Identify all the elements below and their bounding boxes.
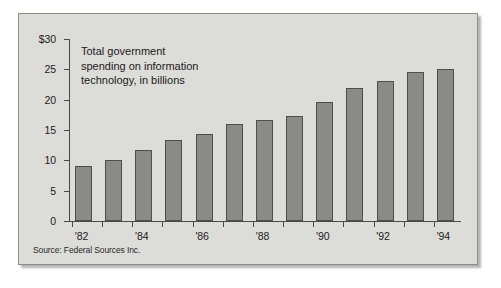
x-axis-tick bbox=[374, 222, 375, 227]
x-axis-tick bbox=[283, 222, 284, 227]
bar bbox=[346, 88, 363, 221]
y-axis-tick: 10 bbox=[64, 160, 69, 161]
x-axis-tick-label: '92 bbox=[376, 230, 389, 242]
y-axis-tick-label: 10 bbox=[45, 154, 56, 166]
bar bbox=[105, 160, 122, 221]
y-axis-tick-label: 15 bbox=[45, 124, 56, 136]
bar bbox=[407, 72, 424, 221]
y-axis-tick-label: 5 bbox=[50, 185, 56, 197]
y-axis-line bbox=[69, 39, 70, 222]
x-axis-tick bbox=[102, 222, 103, 227]
bar bbox=[196, 134, 213, 221]
x-axis-tick-label: '88 bbox=[256, 230, 269, 242]
x-axis-tick bbox=[223, 222, 224, 227]
bar bbox=[75, 166, 92, 221]
chart-panel: Total government spending on information… bbox=[18, 13, 478, 265]
y-axis-tick: 5 bbox=[64, 191, 69, 192]
y-axis-tick: 25 bbox=[64, 69, 69, 70]
bar bbox=[377, 81, 394, 221]
x-axis-tick bbox=[132, 222, 133, 227]
x-axis-tick bbox=[343, 222, 344, 227]
bar bbox=[135, 150, 152, 221]
x-axis-tick bbox=[404, 222, 405, 227]
x-axis-tick bbox=[253, 222, 254, 227]
x-axis-tick bbox=[193, 222, 194, 227]
bar bbox=[226, 124, 243, 221]
x-axis-tick-label: '84 bbox=[135, 230, 148, 242]
y-axis-tick-label: 0 bbox=[50, 215, 56, 227]
bar bbox=[165, 140, 182, 221]
y-axis-tick: $30 bbox=[64, 39, 69, 40]
x-axis-line bbox=[69, 221, 461, 222]
x-axis-tick-label: '90 bbox=[316, 230, 329, 242]
plot-area: 0510152025$30 '82'84'86'88'90'92'94 bbox=[69, 39, 461, 221]
x-axis-tick bbox=[313, 222, 314, 227]
x-axis-tick bbox=[162, 222, 163, 227]
x-axis-tick bbox=[72, 222, 73, 227]
x-axis-tick bbox=[434, 222, 435, 227]
bar bbox=[256, 120, 273, 221]
y-axis-tick-label: 25 bbox=[45, 63, 56, 75]
y-axis-tick-label: $30 bbox=[39, 33, 56, 45]
y-axis-tick: 20 bbox=[64, 100, 69, 101]
x-axis-tick-label: '86 bbox=[195, 230, 208, 242]
bar bbox=[437, 69, 454, 221]
bar bbox=[286, 116, 303, 221]
y-axis-tick: 0 bbox=[64, 221, 69, 222]
y-axis-tick-label: 20 bbox=[45, 94, 56, 106]
x-axis-tick-label: '94 bbox=[437, 230, 450, 242]
y-axis-tick: 15 bbox=[64, 130, 69, 131]
bar bbox=[316, 102, 333, 222]
source-note: Source: Federal Sources Inc. bbox=[33, 245, 140, 255]
x-axis-tick-label: '82 bbox=[75, 230, 88, 242]
